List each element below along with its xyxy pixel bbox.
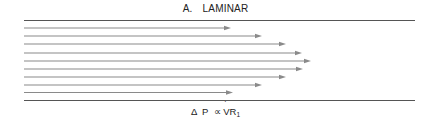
- pressure-formula: Δ P ∝ VR1: [0, 106, 431, 118]
- arrowhead-icon: [224, 26, 231, 30]
- arrowhead-icon: [296, 67, 303, 71]
- arrowhead-icon: [279, 42, 286, 46]
- arrowhead-icon: [279, 75, 286, 79]
- flow-rate-symbol: V: [223, 106, 229, 117]
- arrowhead-icon: [304, 59, 311, 63]
- arrowhead-icon: [226, 90, 233, 94]
- proportional-symbol: ∝: [214, 106, 221, 117]
- arrowhead-icon: [255, 83, 262, 87]
- resistance-subscript: 1: [236, 111, 240, 118]
- arrowhead-icon: [255, 34, 262, 38]
- arrowhead-icon: [295, 51, 302, 55]
- flow-arrows: [24, 26, 311, 95]
